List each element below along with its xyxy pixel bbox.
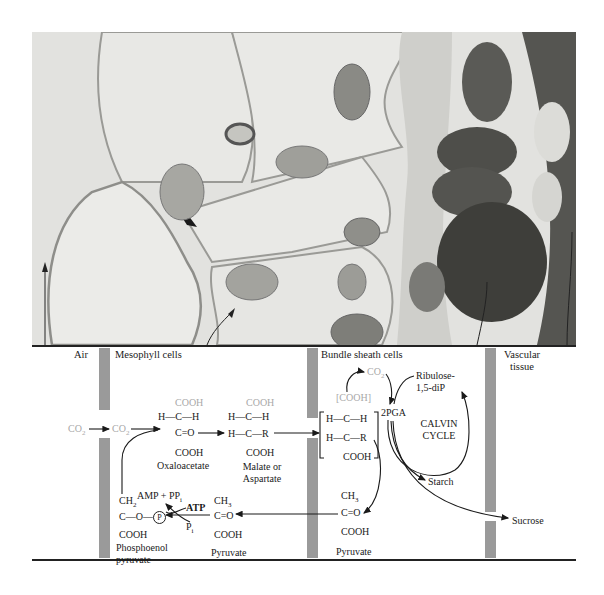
mesophyll-membrane-lower [99,438,110,558]
bundle-acid-row1: H—C—H [326,414,367,424]
bundle-acid-top: [COOH] [336,393,371,403]
vascular-membrane-lower [485,521,496,558]
oxaloacetate-row2: C=O [175,428,195,438]
label-vascular-line2: tissue [510,361,534,372]
co2-air: CO2 [68,424,85,437]
label-vascular-line1: Vascular [504,349,540,360]
pyruvate-meso-bottom: COOH [214,530,242,540]
label-sucrose: Sucrose [512,516,544,526]
micrograph-bottom-rule [32,345,576,347]
co2-mesophyll: CO2 [112,424,129,437]
malate-name: Malate orAspartate [232,461,292,485]
pyruvate-meso-name: Pyruvate [211,548,247,558]
pep-name: Phosphoenolpyruvate [116,542,168,566]
label-amp-ppi: AMP + PPi [137,491,182,504]
label-2pga: 2PGA [381,408,406,418]
co2-bundle-sheath: CO2 [367,367,384,380]
pep-top: CH2 [119,496,136,509]
label-starch: Starch [428,477,454,487]
oxaloacetate-name: Oxaloacetate [157,461,209,471]
pyruvate-bundle-mid: C=O [341,508,361,518]
mesophyll-membrane-upper [99,348,110,410]
label-ribulose: Ribulose-1,5-diP [416,370,455,394]
bundle-sheath-membrane-lower [307,438,318,558]
pyruvate-meso-mid: C=O [214,511,234,521]
pep-bottom: COOH [119,530,147,540]
bundle-acid-bottom: COOH [343,452,371,462]
oxaloacetate-bottom: COOH [175,448,203,458]
pyruvate-bundle-top: CH3 [341,491,358,504]
oxaloacetate-row1: H—C—H [158,412,199,422]
malate-bottom: COOH [246,448,274,458]
bundle-acid-row2: H—C—R [326,433,367,443]
pep-mid: C—O—P [119,511,166,524]
leaf-micrograph [32,32,576,345]
malate-top: COOH [246,398,274,408]
malate-row2: H—C—R [228,429,269,439]
micrograph-illustration [32,32,576,345]
label-calvin-cycle: CALVINCYCLE [414,418,464,442]
bundle-sheath-membrane-upper [307,348,318,418]
phosphate-circle: P [153,511,166,524]
vascular-membrane-upper [485,348,496,512]
label-pi: Pi [186,522,194,535]
label-mesophyll-cells: Mesophyll cells [115,349,182,361]
label-air: Air [74,349,88,361]
oxaloacetate-top: COOH [175,398,203,408]
pyruvate-bundle-name: Pyruvate [336,547,372,557]
diagram-bottom-rule [32,559,576,561]
pyruvate-meso-top: CH3 [214,496,231,509]
pyruvate-bundle-bottom: COOH [341,527,369,537]
label-vascular-tissue: Vascular tissue [500,349,544,372]
malate-row1: H—C—H [228,412,269,422]
label-atp: ATP [186,503,205,513]
label-bundle-sheath-cells: Bundle sheath cells [321,349,403,361]
